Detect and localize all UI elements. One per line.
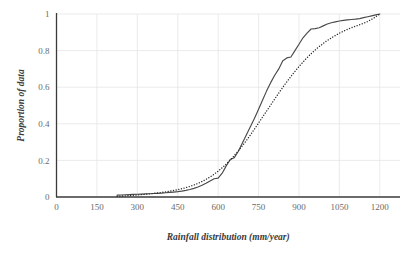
x-tick-label: 750 — [252, 202, 266, 212]
x-tick-label: 450 — [171, 202, 185, 212]
x-tick-label: 1050 — [330, 202, 349, 212]
x-tick-label: 600 — [211, 202, 225, 212]
x-axis-tick-labels: 015030045060075090010501200 — [54, 202, 389, 212]
x-axis-title: Rainfall distribution (mm/year) — [166, 232, 290, 243]
chart-canvas: 015030045060075090010501200 00.20.40.60.… — [0, 0, 411, 256]
y-axis-tick-labels: 00.20.40.60.81 — [38, 9, 50, 202]
y-tick-label: 0 — [45, 192, 50, 202]
x-tick-label: 150 — [90, 202, 104, 212]
horizontal-gridlines — [57, 14, 401, 160]
empirical-cdf-line — [117, 14, 380, 195]
vertical-gridlines — [97, 14, 380, 197]
y-tick-label: 0.2 — [38, 156, 49, 166]
rainfall-cdf-chart: 015030045060075090010501200 00.20.40.60.… — [0, 0, 411, 256]
y-tick-label: 0.8 — [38, 46, 50, 56]
x-tick-label: 900 — [292, 202, 306, 212]
x-tick-label: 0 — [54, 202, 59, 212]
y-tick-label: 1 — [45, 9, 50, 19]
y-tick-label: 0.6 — [38, 82, 50, 92]
x-tick-label: 1200 — [371, 202, 390, 212]
x-tick-label: 300 — [131, 202, 145, 212]
fitted-distribution-line — [117, 14, 380, 196]
y-tick-label: 0.4 — [38, 119, 50, 129]
y-axis-title: Proportion of data — [16, 69, 26, 142]
